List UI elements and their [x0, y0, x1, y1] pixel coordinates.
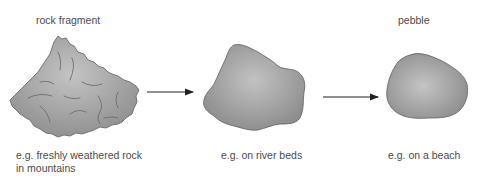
caption-beach: e.g. on a beach	[388, 149, 460, 162]
stage-title-rock-fragment: rock fragment	[36, 14, 100, 27]
caption-rock-fragment-line-1: e.g. freshly weathered rock	[16, 149, 142, 162]
rock-fragment-shape	[10, 36, 139, 137]
rounded-stone-shape	[204, 45, 305, 131]
caption-rock-fragment-line-2: in mountains	[16, 162, 76, 175]
caption-river-beds: e.g. on river beds	[221, 149, 302, 162]
pebble-shape	[387, 54, 468, 119]
stage-title-pebble: pebble	[398, 14, 430, 27]
